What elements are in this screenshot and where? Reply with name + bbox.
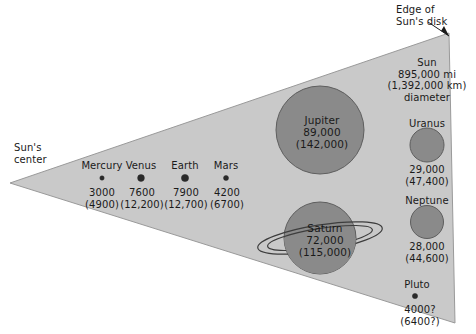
label-mercury-name: Mercury: [81, 160, 122, 172]
sun-center-annotation: Sun's center: [14, 142, 47, 165]
uranus-diameter-mi: 29,000: [405, 164, 449, 176]
mars-diameter-mi: 4200: [210, 187, 244, 199]
uranus-diameter-km: (47,400): [405, 176, 449, 188]
edge-of-disk-line-1: Edge of: [396, 4, 447, 16]
label-pluto-name: Pluto: [404, 279, 430, 291]
caption-uranus: 29,000 (47,400): [405, 164, 449, 187]
jupiter-name: Jupiter: [296, 114, 349, 126]
label-earth-name: Earth: [171, 160, 198, 172]
planet-dot-earth: [181, 174, 188, 181]
edge-of-disk-annotation: Edge of Sun's disk: [396, 4, 447, 27]
mars-diameter-km: (6700): [210, 199, 244, 211]
sun-diameter-mi: 895,000 mi: [388, 69, 467, 81]
sun-name: Sun: [388, 57, 467, 69]
pluto-diameter-km: (6400?): [400, 316, 439, 328]
saturn-diameter-km: (115,000): [299, 246, 352, 258]
planet-size-diagram: Sun's center Edge of Sun's disk Sun 895,…: [0, 0, 476, 334]
pluto-diameter-mi: 4000?: [400, 304, 439, 316]
venus-diameter-mi: 7600: [120, 187, 164, 199]
neptune-diameter-km: (44,600): [405, 253, 449, 265]
planet-disk-neptune: [411, 206, 444, 239]
sun-diameter-note: diameter: [388, 92, 467, 104]
planet-dot-mars: [224, 176, 229, 181]
earth-diameter-km: (12,700): [164, 199, 208, 211]
label-venus-name: Venus: [126, 160, 157, 172]
sun-caption: Sun 895,000 mi (1,392,000 km) diameter: [388, 57, 467, 103]
edge-of-disk-line-2: Sun's disk: [396, 16, 447, 28]
jupiter-diameter-mi: 89,000: [296, 126, 349, 138]
caption-neptune: 28,000 (44,600): [405, 241, 449, 264]
planet-disk-uranus: [410, 128, 444, 162]
venus-diameter-km: (12,200): [120, 199, 164, 211]
caption-mercury: 3000 (4900): [85, 187, 119, 210]
saturn-name: Saturn: [299, 222, 352, 234]
earth-diameter-mi: 7900: [164, 187, 208, 199]
mercury-diameter-km: (4900): [85, 199, 119, 211]
jupiter-diameter-km: (142,000): [296, 138, 349, 150]
label-neptune-name: Neptune: [405, 195, 448, 207]
sun-diameter-km: (1,392,000 km): [388, 80, 467, 92]
planet-dot-mercury: [100, 176, 104, 180]
neptune-diameter-mi: 28,000: [405, 241, 449, 253]
sun-center-line-2: center: [14, 154, 47, 166]
label-uranus-name: Uranus: [409, 118, 445, 130]
label-mars-name: Mars: [214, 160, 238, 172]
planet-dot-pluto: [412, 293, 417, 298]
caption-earth: 7900 (12,700): [164, 187, 208, 210]
caption-venus: 7600 (12,200): [120, 187, 164, 210]
caption-mars: 4200 (6700): [210, 187, 244, 210]
planet-dot-venus: [138, 175, 145, 182]
caption-pluto: 4000? (6400?): [400, 304, 439, 327]
mercury-diameter-mi: 3000: [85, 187, 119, 199]
sun-center-line-1: Sun's: [14, 142, 47, 154]
caption-saturn: Saturn 72,000 (115,000): [299, 222, 352, 258]
saturn-diameter-mi: 72,000: [299, 234, 352, 246]
caption-jupiter: Jupiter 89,000 (142,000): [296, 114, 349, 150]
